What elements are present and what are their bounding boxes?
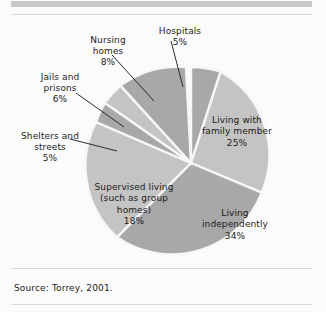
pie-chart-area: Hospitals 5% Nursing homes 8% Jails and … bbox=[0, 14, 326, 268]
slice-label-living-with-family-member-pct: 25% bbox=[227, 138, 247, 148]
slice-label-living-independently-text: Living independently bbox=[202, 208, 268, 230]
divider-bottom bbox=[11, 304, 312, 305]
slice-label-jails-and-prisons-pct: 6% bbox=[18, 94, 102, 105]
slice-label-living-independently-pct: 34% bbox=[225, 231, 245, 241]
top-decorative-band bbox=[11, 1, 312, 7]
slice-label-jails-and-prisons-text: Jails and prisons bbox=[41, 72, 80, 93]
slice-label-living-with-family-member-text: Living with family member bbox=[202, 115, 272, 137]
slice-label-shelters-and-streets-pct: 5% bbox=[4, 153, 96, 164]
slice-label-living-with-family-member: Living with family member 25% bbox=[195, 103, 279, 149]
slice-label-jails-and-prisons: Jails and prisons 6% bbox=[18, 61, 102, 116]
slice-label-living-independently: Living independently 34% bbox=[192, 196, 278, 242]
slice-label-shelters-and-streets: Shelters and streets 5% bbox=[4, 120, 96, 175]
slice-label-hospitals-pct: 5% bbox=[140, 37, 220, 48]
slice-label-hospitals: Hospitals 5% bbox=[140, 15, 220, 59]
slice-label-hospitals-text: Hospitals bbox=[159, 26, 201, 36]
slice-label-supervised-living: Supervised living (such as group homes) … bbox=[86, 170, 182, 228]
divider-above-source bbox=[11, 268, 312, 269]
figure-page: Hospitals 5% Nursing homes 8% Jails and … bbox=[0, 0, 326, 312]
slice-label-shelters-and-streets-text: Shelters and streets bbox=[21, 131, 79, 152]
slice-label-nursing-homes-text: Nursing homes bbox=[90, 35, 125, 56]
slice-label-supervised-living-text: Supervised living (such as group homes) bbox=[95, 182, 174, 215]
slice-label-supervised-living-pct: 18% bbox=[124, 216, 144, 226]
source-note: Source: Torrey, 2001. bbox=[14, 283, 113, 293]
